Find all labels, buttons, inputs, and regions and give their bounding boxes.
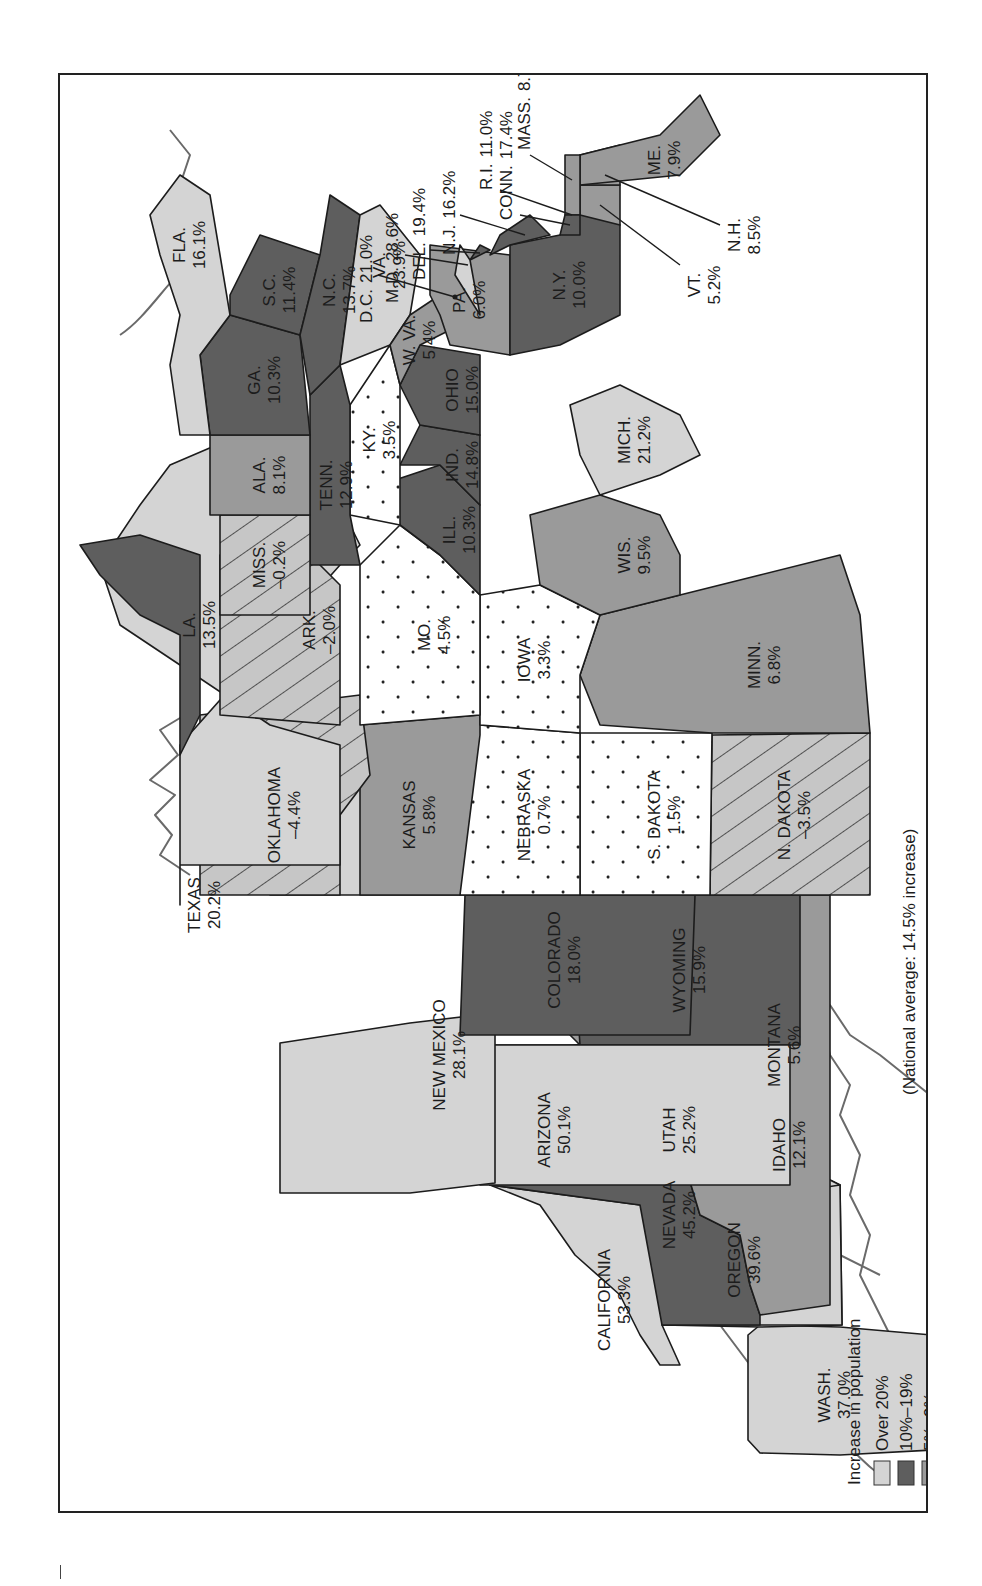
svg-text:MINN.6.8%: MINN.6.8% [745,641,784,689]
svg-text:N.H.8.5%: N.H.8.5% [725,216,764,255]
svg-text:N.C.13.7%: N.C.13.7% [320,266,359,314]
svg-text:TEXAS20.2%: TEXAS20.2% [185,877,224,933]
svg-text:MASS.8.7%: MASS.8.7% [515,75,534,150]
svg-text:10%–19%: 10%–19% [897,1373,916,1451]
legend-increase-title: Increase in population [845,1319,864,1485]
svg-text:IND.14.8%: IND.14.8% [443,441,482,489]
svg-text:W. VA.5.4%: W. VA.5.4% [400,315,439,366]
svg-text:DEL.19.4%: DEL.19.4% [410,188,429,280]
svg-text:MICH.21.2%: MICH.21.2% [615,416,654,464]
svg-text:WIS.9.5%: WIS.9.5% [615,536,654,575]
svg-text:S.C.11.4%: S.C.11.4% [260,267,299,314]
svg-text:VT.5.2%: VT.5.2% [685,266,724,305]
legend-item-10to19: 10%–19% [897,1373,916,1485]
state-ut [480,1045,790,1185]
svg-text:N.J.16.2%: N.J.16.2% [440,171,459,255]
national-average-note: (National average: 14.5% increase) [900,829,919,1095]
svg-text:D.C.21.0%: D.C.21.0% [357,235,376,323]
svg-text:NEVADA45.2%: NEVADA45.2% [660,1180,699,1249]
svg-text:MISS.–0.2%: MISS.–0.2% [250,541,289,589]
svg-text:Over 20%: Over 20% [873,1375,892,1451]
svg-text:FLA.16.1%: FLA.16.1% [170,221,209,269]
state-la [80,535,200,755]
svg-text:R.I.11.0%: R.I.11.0% [477,111,496,190]
svg-text:MO.4.5%: MO.4.5% [415,616,454,655]
svg-text:CONN.17.4%: CONN.17.4% [497,111,516,220]
svg-text:5%–9%: 5%–9% [921,1392,928,1451]
svg-text:TENN.12.9%: TENN.12.9% [317,460,356,511]
svg-text:IOWA3.3%: IOWA3.3% [515,637,554,682]
us-population-change-map: WASH.37.0% OREGON39.6% CALIFORNIA53.3% N… [60,75,928,1513]
svg-text:UTAH25.2%: UTAH25.2% [660,1106,699,1154]
svg-text:ALA.8.1%: ALA.8.1% [250,456,289,495]
svg-text:ARK.–2.0%: ARK.–2.0% [300,606,339,654]
legend-item-over20: Over 20% [873,1375,892,1485]
legend-item-5to9: 5%–9% [921,1392,928,1485]
map-frame: WASH.37.0% OREGON39.6% CALIFORNIA53.3% N… [58,73,928,1513]
svg-text:OHIO15.0%: OHIO15.0% [443,366,482,414]
svg-text:IDAHO12.1%: IDAHO12.1% [770,1118,809,1172]
rotated-map-canvas: WASH.37.0% OREGON39.6% CALIFORNIA53.3% N… [60,75,928,1513]
state-ma [565,155,580,215]
page-tick-mark [60,1565,61,1579]
svg-text:ME.7.9%: ME.7.9% [645,141,684,180]
svg-text:M.D.28.6%: M.D.28.6% [383,213,402,303]
